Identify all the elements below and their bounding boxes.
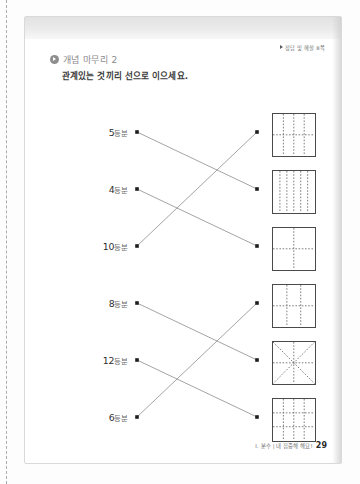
connection-dot[interactable] [255, 244, 259, 248]
label-unit: 등분 [114, 186, 128, 195]
connection-dot[interactable] [135, 130, 139, 134]
connection-line[interactable] [137, 132, 257, 189]
fraction-label: 8등분 [109, 298, 128, 309]
partitioned-square-figure[interactable] [272, 113, 316, 157]
label-unit: 등분 [114, 129, 128, 138]
connection-line[interactable] [137, 132, 257, 246]
perforation-tear-line [6, 0, 7, 484]
connection-dot[interactable] [255, 301, 259, 305]
connection-line[interactable] [137, 189, 257, 246]
label-unit: 등분 [114, 357, 128, 366]
connection-dot[interactable] [255, 358, 259, 362]
partitioned-square-figure[interactable] [272, 341, 316, 385]
label-number: 10 [103, 241, 115, 252]
label-unit: 등분 [114, 414, 128, 423]
connection-line[interactable] [137, 303, 257, 417]
footer-chapter-text: I. 분수 | 내 집중해 해요! [255, 442, 313, 450]
label-number: 12 [103, 355, 115, 366]
partitioned-square-figure[interactable] [272, 227, 316, 271]
scanned-page-background: 정답 및 해설 8쪽 개념 마무리 2 관계있는 것끼리 선으로 이으세요. 5… [0, 0, 360, 484]
page-footer: I. 분수 | 내 집중해 해요! 29 [255, 441, 327, 450]
connection-dot[interactable] [135, 415, 139, 419]
partitioned-square-figure[interactable] [272, 398, 316, 442]
label-unit: 등분 [114, 243, 128, 252]
connection-dot[interactable] [255, 415, 259, 419]
fraction-label: 5등분 [109, 127, 128, 138]
connection-dot[interactable] [135, 301, 139, 305]
connection-dot[interactable] [135, 358, 139, 362]
workbook-page-sheet: 정답 및 해설 8쪽 개념 마무리 2 관계있는 것끼리 선으로 이으세요. 5… [24, 16, 342, 464]
connection-dot[interactable] [255, 130, 259, 134]
partitioned-square-figure[interactable] [272, 170, 316, 214]
connection-line[interactable] [137, 303, 257, 360]
fraction-label: 6등분 [109, 412, 128, 423]
connection-dot[interactable] [255, 187, 259, 191]
connection-dots [135, 130, 259, 419]
matching-exercise: 5등분4등분10등분8등분12등분6등분 [25, 17, 343, 465]
page-number: 29 [316, 441, 327, 450]
connection-line[interactable] [137, 360, 257, 417]
connection-dot[interactable] [135, 244, 139, 248]
connection-lines [137, 132, 257, 417]
label-unit: 등분 [114, 300, 128, 309]
connection-dot[interactable] [135, 187, 139, 191]
partitioned-square-figure[interactable] [272, 284, 316, 328]
fraction-label: 12등분 [103, 355, 128, 366]
fraction-label: 4등분 [109, 184, 128, 195]
fraction-label: 10등분 [103, 241, 128, 252]
